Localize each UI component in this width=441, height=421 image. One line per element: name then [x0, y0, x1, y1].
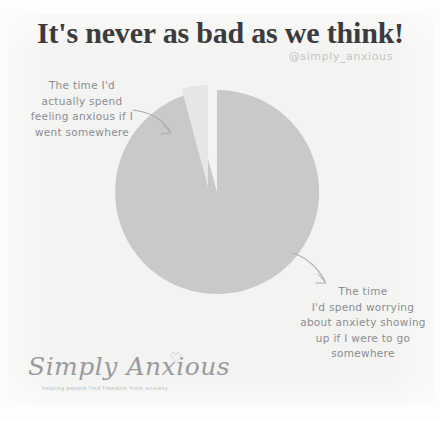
annotation-worrying: The time I'd spend worrying about anxiet…: [288, 284, 438, 362]
infographic-canvas: It's never as bad as we think! @simply_a…: [0, 0, 441, 421]
brand-logo: Simply Anxious ♡ helping people find fre…: [28, 352, 198, 404]
annotation-actual-anxiety: The time I'd actually spend feeling anxi…: [6, 78, 158, 140]
heart-icon: ♡: [170, 350, 182, 365]
brand-tagline: helping people find freedom from anxiety: [42, 385, 168, 391]
callout-arrow-right: [293, 253, 326, 283]
brand-wordmark: Simply Anxious: [28, 352, 230, 381]
